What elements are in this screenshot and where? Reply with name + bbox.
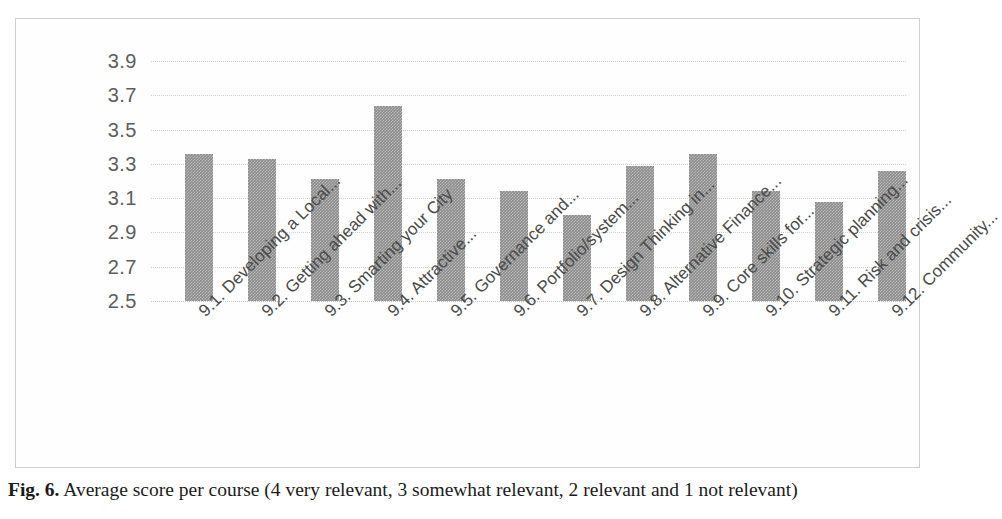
y-axis-tick-label: 2.7: [108, 255, 137, 278]
category-labels: 9.1. Developing a Local...9.2. Getting a…: [151, 301, 906, 466]
caption-label: Fig. 6.: [8, 479, 59, 500]
y-axis-tick-label: 3.7: [108, 84, 137, 107]
y-axis-tick-label: 3.1: [108, 187, 137, 210]
y-axis-tick-label: 2.5: [108, 290, 137, 313]
y-axis-tick-label: 2.9: [108, 221, 137, 244]
y-axis-tick-label: 3.3: [108, 152, 137, 175]
y-axis-tick-label: 3.5: [108, 118, 137, 141]
caption-text: Average score per course (4 very relevan…: [63, 479, 797, 500]
figure-caption: Fig. 6. Average score per course (4 very…: [8, 478, 933, 502]
bar: [185, 154, 213, 301]
figure-frame: 3.93.73.53.33.12.92.72.5 9.1. Developing…: [15, 18, 920, 468]
y-axis-tick-label: 3.9: [108, 50, 137, 73]
bar-chart: 3.93.73.53.33.12.92.72.5 9.1. Developing…: [16, 19, 921, 469]
